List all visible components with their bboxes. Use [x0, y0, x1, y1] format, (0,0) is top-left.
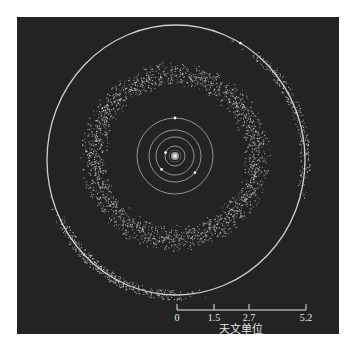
scale-tick-label: 2.7: [243, 313, 256, 323]
sun-icon: [169, 150, 181, 162]
trojan-asteroids: [50, 41, 311, 301]
scale-tick-label: 5.2: [300, 313, 313, 323]
jupiter-orbit: [47, 25, 305, 295]
mercury-icon: [164, 151, 167, 154]
mars-icon: [174, 117, 177, 120]
jupiter-icon: [239, 42, 242, 45]
orbit-diagram: [17, 17, 339, 334]
scale-tick-label: 0: [175, 313, 180, 323]
venus-icon: [160, 168, 163, 171]
earth-icon: [194, 171, 197, 174]
planet-orbits: [47, 25, 305, 295]
scale-tick-label: 1.5: [208, 313, 221, 323]
solar-system-diagram: [17, 17, 339, 334]
scale-unit-label: 天文单位: [219, 324, 263, 335]
scale-bar: [177, 304, 306, 310]
